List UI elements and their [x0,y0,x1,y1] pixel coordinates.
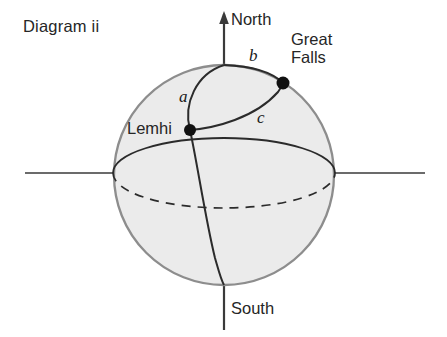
point-label-great-falls: GreatFalls [291,30,332,67]
point-dot-great-falls [277,77,290,90]
arc-label-c: c [257,108,265,127]
arc-label-a: a [179,87,188,106]
point-dot-lemhi [184,124,196,136]
point-label-great-falls-line1: Great [291,30,332,48]
diagram-figure: Diagram ii North South GreatFalls Lemhi … [0,0,447,337]
sphere-body [114,65,334,285]
point-label-great-falls-line2: Falls [291,48,326,66]
south-axis-label: South [231,299,274,317]
north-arrow-icon [219,11,229,24]
point-label-lemhi: Lemhi [127,119,172,137]
sphere-diagram-svg [0,0,447,337]
diagram-title: Diagram ii [23,17,99,35]
north-axis-label: North [231,10,271,28]
arc-label-b: b [249,46,258,65]
